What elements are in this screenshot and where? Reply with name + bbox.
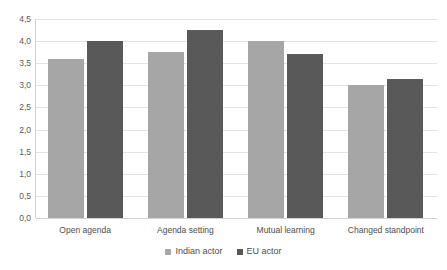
category-axis-labels: Open agendaAgenda settingMutual learning… <box>35 224 436 238</box>
y-axis-tick-label: 3,5 <box>19 59 31 68</box>
bar-indian-actor[interactable] <box>48 59 84 218</box>
bar-group <box>348 19 423 218</box>
legend-swatch-icon <box>165 249 171 255</box>
y-axis-tick-label: 0,5 <box>19 192 31 201</box>
y-axis-tick-label: 4,0 <box>19 37 31 46</box>
bar-indian-actor[interactable] <box>248 41 284 218</box>
gridline: 0,0 <box>36 218 437 219</box>
bar-eu-actor[interactable] <box>87 41 123 218</box>
y-axis-tick-label: 1,0 <box>19 170 31 179</box>
bar-eu-actor[interactable] <box>387 79 423 218</box>
bars-layer <box>35 19 436 218</box>
bar-chart: 0,00,51,01,52,02,53,03,54,04,5 Open agen… <box>0 0 447 270</box>
bar-eu-actor[interactable] <box>187 30 223 218</box>
bar-indian-actor[interactable] <box>148 52 184 218</box>
y-axis-tick-label: 2,0 <box>19 125 31 134</box>
legend-label: EU actor <box>247 246 282 257</box>
bar-group <box>148 19 223 218</box>
bar-group <box>48 19 123 218</box>
y-axis-tick-label: 4,5 <box>19 15 31 24</box>
y-axis-tick-label: 3,0 <box>19 81 31 90</box>
bar-group <box>248 19 323 218</box>
category-label: Changed standpoint <box>326 224 446 236</box>
bar-eu-actor[interactable] <box>287 54 323 218</box>
legend-swatch-icon <box>237 249 243 255</box>
legend-label: Indian actor <box>175 246 222 257</box>
legend-item[interactable]: Indian actor <box>165 246 222 257</box>
legend-item[interactable]: EU actor <box>237 246 282 257</box>
y-axis-tick-label: 1,5 <box>19 147 31 156</box>
y-axis-tick-label: 0,0 <box>19 214 31 223</box>
y-axis-tick-label: 2,5 <box>19 103 31 112</box>
chart-legend: Indian actorEU actor <box>0 246 447 257</box>
bar-indian-actor[interactable] <box>348 85 384 218</box>
